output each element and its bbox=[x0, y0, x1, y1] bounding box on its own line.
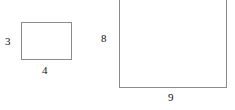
large-rectangle-width-label: 9 bbox=[168, 92, 174, 103]
small-rectangle-height-label: 3 bbox=[5, 36, 11, 47]
geometry-figure-canvas: 3 4 8 9 bbox=[0, 0, 235, 110]
large-rectangle-shape bbox=[119, 0, 227, 88]
small-rectangle-width-label: 4 bbox=[42, 65, 48, 76]
small-rectangle-shape bbox=[21, 22, 72, 60]
large-rectangle-height-label: 8 bbox=[101, 33, 107, 44]
